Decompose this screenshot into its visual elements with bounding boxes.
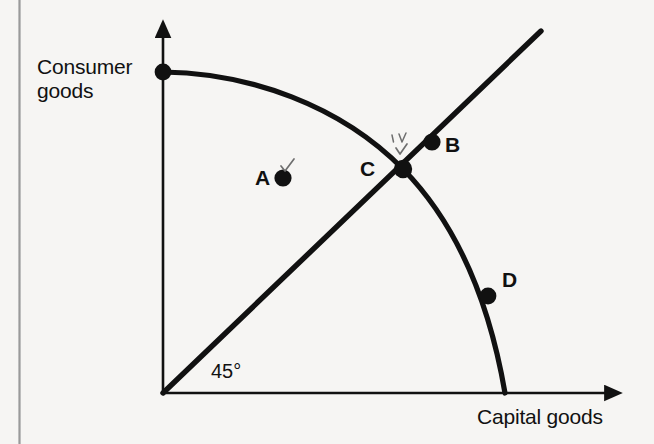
point-c-dot (394, 160, 412, 178)
point-b-label: B (445, 133, 460, 157)
point-a-label: A (255, 166, 270, 190)
pencil-check-mark-c (396, 144, 407, 154)
angle-45-label: 45° (211, 360, 241, 382)
point-d-dot (480, 288, 497, 305)
curve-y-intercept-dot (155, 64, 172, 81)
point-b-dot (423, 133, 440, 150)
forty-five-degree-ray (163, 31, 541, 393)
x-axis-label: Capital goods (477, 405, 603, 429)
pencil-check-mark-a (281, 159, 294, 171)
y-axis-label: Consumergoods (37, 55, 132, 102)
pencil-tick-mark-c (392, 133, 406, 142)
y-axis-label-line2: goods (37, 79, 93, 102)
point-c-label: C (360, 157, 375, 181)
y-axis-label-line1: Consumer (37, 55, 132, 78)
point-a-dot (274, 169, 291, 186)
point-d-label: D (502, 268, 517, 292)
